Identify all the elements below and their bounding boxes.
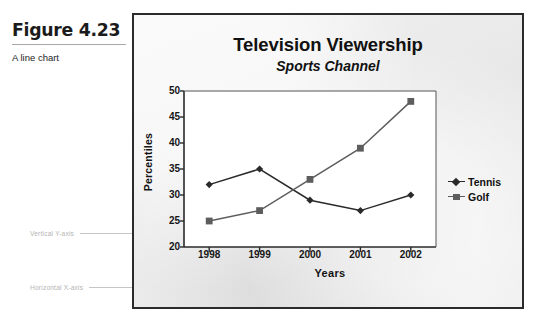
legend-label-tennis: Tennis — [468, 176, 501, 188]
legend-item-golf[interactable]: Golf — [448, 190, 501, 203]
y-axis-tick-35: 35 — [158, 163, 180, 174]
y-axis-tick-45: 45 — [158, 111, 180, 122]
x-axis-tick-1999: 1999 — [238, 249, 282, 260]
callout-horizontal-x-axis-label: Horizontal X-axis — [30, 284, 83, 291]
figure-number: Figure 4.23 — [12, 20, 125, 40]
x-axis-title: Years — [134, 267, 526, 279]
callout-vertical-y-axis-label: Vertical Y-axis — [30, 230, 74, 237]
chart-plot-area: Percentiles 20253035404550 1998199920002… — [134, 15, 526, 311]
caption-divider — [12, 44, 126, 45]
y-axis-tick-30: 30 — [158, 189, 180, 200]
figure-caption-block: Figure 4.23 A line chart — [12, 20, 130, 64]
x-axis-tick-2001: 2001 — [338, 249, 382, 260]
y-axis-tick-25: 25 — [158, 215, 180, 226]
legend-item-tennis[interactable]: Tennis — [448, 175, 501, 188]
figure-caption-text: A line chart — [12, 52, 130, 64]
y-axis-tick-20: 20 — [158, 241, 180, 252]
x-axis-tick-1998: 1998 — [187, 249, 231, 260]
x-axis-tick-2002: 2002 — [389, 249, 433, 260]
legend-diamond-icon — [448, 177, 465, 186]
figure-page: Figure 4.23 A line chart Vertical Y-axis… — [0, 0, 551, 331]
y-axis-tick-40: 40 — [158, 137, 180, 148]
y-axis-tick-50: 50 — [158, 85, 180, 96]
legend-square-icon — [448, 192, 465, 201]
legend-label-golf: Golf — [468, 191, 489, 203]
chart-legend: TennisGolf — [448, 175, 501, 203]
figure-box: Television Viewership Sports Channel Per… — [132, 13, 524, 309]
x-axis-tick-2000: 2000 — [288, 249, 332, 260]
